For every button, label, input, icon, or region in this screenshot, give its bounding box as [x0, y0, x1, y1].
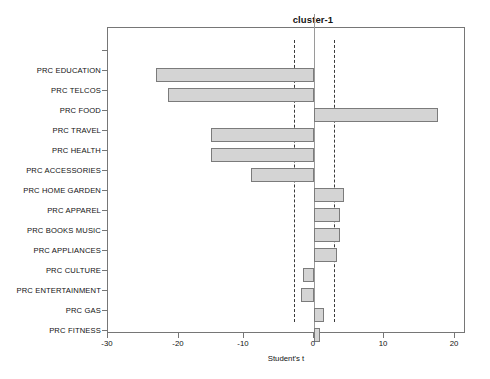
plot-area — [107, 27, 465, 333]
x-axis-tick — [313, 333, 314, 338]
bar-prc-telcos — [168, 88, 314, 102]
y-axis-label-5: PRC ACCESSORIES — [0, 166, 101, 175]
y-axis-label-6: PRC HOME GARDEN — [0, 186, 101, 195]
bar-prc-health — [211, 148, 314, 162]
chart-title-text: cluster-1 — [293, 14, 334, 25]
y-axis-label-8: PRC BOOKS MUSIC — [0, 226, 101, 235]
chart-title: cluster-1 — [0, 14, 490, 25]
bar-prc-appliances — [314, 248, 337, 262]
x-axis-tick-label-1: -20 — [158, 339, 198, 348]
bar-prc-food — [314, 108, 438, 122]
bar-prc-home-garden — [314, 188, 344, 202]
y-axis-label-4: PRC HEALTH — [0, 146, 101, 155]
bar-prc-books-music — [314, 228, 340, 242]
x-axis-tick-label-0: -30 — [87, 339, 127, 348]
y-axis-label-13: PRC FITNESS — [0, 326, 101, 335]
bar-prc-accessories — [251, 168, 314, 182]
x-axis-tick — [107, 333, 108, 338]
x-axis-tick — [454, 333, 455, 338]
bar-prc-travel — [211, 128, 314, 142]
x-axis-tick-label-5: 20 — [434, 339, 474, 348]
bar-prc-education — [156, 68, 314, 82]
x-axis-tick-label-2: -10 — [223, 339, 263, 348]
y-axis-label-10: PRC CULTURE — [0, 266, 101, 275]
y-axis-label-3: PRC TRAVEL — [0, 126, 101, 135]
y-axis-label-11: PRC ENTERTAINMENT — [0, 286, 101, 295]
x-axis-tick — [178, 333, 179, 338]
chart-figure: cluster-1 PRC EDUCATION PRC TELCOS PRC F… — [0, 0, 490, 379]
y-axis-label-0: PRC EDUCATION — [0, 66, 101, 75]
bar-prc-entertainment — [301, 288, 314, 302]
x-axis-tick — [383, 333, 384, 338]
y-axis-label-1: PRC TELCOS — [0, 86, 101, 95]
bar-prc-apparel — [314, 208, 340, 222]
x-axis-tick — [243, 333, 244, 338]
y-axis-label-7: PRC APPAREL — [0, 206, 101, 215]
x-axis-tick-label-4: 10 — [363, 339, 403, 348]
y-axis-label-9: PRC APPLIANCES — [0, 246, 101, 255]
x-axis-tick-label-3: 0 — [293, 339, 333, 348]
y-axis-label-2: PRC FOOD — [0, 106, 101, 115]
x-axis-title: Student's t — [107, 354, 465, 363]
bar-prc-culture — [303, 268, 314, 282]
bar-prc-gas — [314, 308, 324, 322]
y-axis-label-12: PRC GAS — [0, 306, 101, 315]
bars-layer — [108, 28, 464, 332]
